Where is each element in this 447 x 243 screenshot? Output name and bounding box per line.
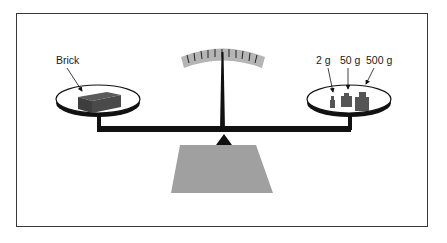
weight-2g-label: 2 g (316, 54, 331, 66)
weight-500g-label: 500 g (366, 54, 392, 66)
weight-50g-label: 50 g (340, 54, 361, 66)
arrow-500g (366, 68, 374, 84)
needle (220, 52, 225, 130)
fulcrum (216, 134, 232, 145)
brick-label: Brick (56, 54, 80, 66)
balance-scale-diagram: Brick 2 g 50 g 500 g (0, 0, 447, 243)
scale-base (171, 145, 273, 193)
